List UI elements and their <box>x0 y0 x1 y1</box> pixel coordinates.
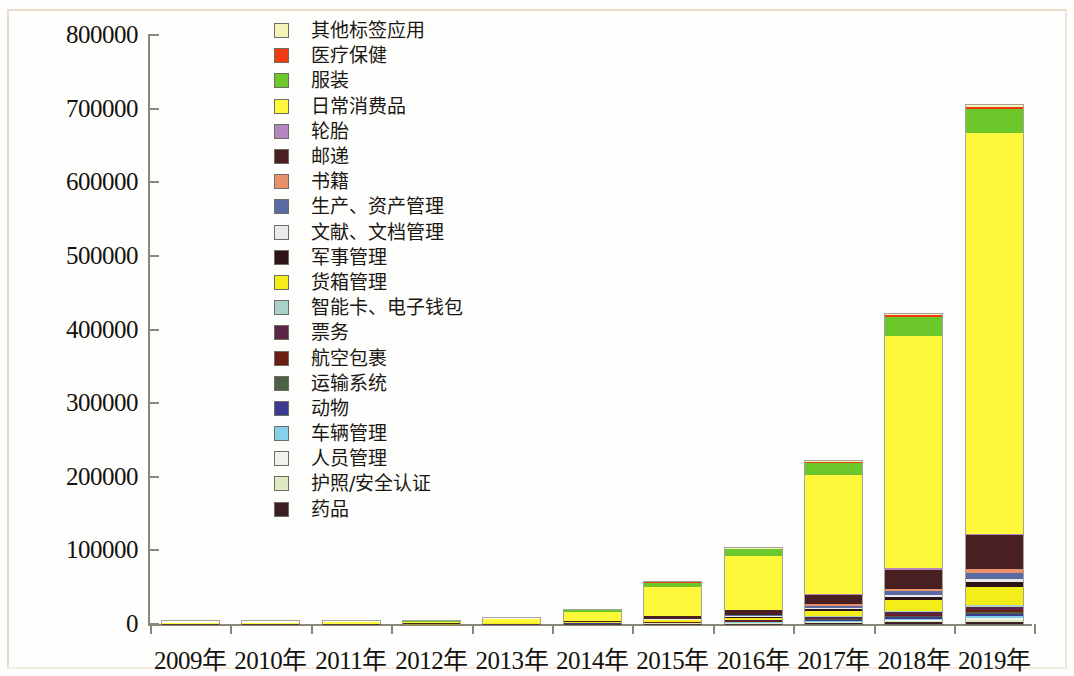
legend-label: 邮递 <box>311 147 349 166</box>
legend-swatch-icon <box>274 502 289 517</box>
y-axis-label: 600000 <box>0 169 138 194</box>
legend-item: 其他标签应用 <box>274 18 514 43</box>
y-axis-label: 700000 <box>0 96 138 121</box>
x-axis-label: 2018年 <box>874 640 954 676</box>
legend-swatch-icon <box>274 476 289 491</box>
bar-segment <box>725 624 782 625</box>
legend-swatch-icon <box>274 351 289 366</box>
y-axis-label: 200000 <box>0 464 138 489</box>
bar-segment <box>805 623 862 624</box>
y-axis-tick <box>148 402 159 404</box>
legend-label: 票务 <box>311 323 349 342</box>
y-axis-tick <box>148 34 159 36</box>
x-axis-tick <box>874 624 876 634</box>
y-axis-tick <box>148 181 159 183</box>
x-axis-tick <box>472 624 474 634</box>
legend-label: 运输系统 <box>311 374 387 393</box>
x-axis-tick <box>311 624 313 634</box>
legend-item: 日常消费品 <box>274 94 514 119</box>
legend-label: 文献、文档管理 <box>311 223 444 242</box>
bar-2013年 <box>483 618 540 624</box>
bar-2014年 <box>564 610 621 624</box>
legend-label: 动物 <box>311 399 349 418</box>
legend-item: 护照/安全认证 <box>274 471 514 496</box>
x-axis-tick <box>954 624 956 634</box>
legend-swatch-icon <box>274 23 289 38</box>
x-axis-tick <box>1034 624 1036 634</box>
legend-swatch-icon <box>274 325 289 340</box>
legend-swatch-icon <box>274 250 289 265</box>
legend-item: 生产、资产管理 <box>274 194 514 219</box>
x-axis-label: 2016年 <box>713 640 793 676</box>
bar-segment <box>885 317 942 337</box>
x-axis-tick <box>793 624 795 634</box>
bar-segment <box>966 622 1023 624</box>
legend-item: 运输系统 <box>274 371 514 396</box>
legend-swatch-icon <box>274 225 289 240</box>
bar-2018年 <box>885 314 942 624</box>
legend-swatch-icon <box>274 300 289 315</box>
y-axis-label: 100000 <box>0 537 138 562</box>
x-axis-tick <box>713 624 715 634</box>
x-axis-tick <box>391 624 393 634</box>
bar-2016年 <box>725 548 782 624</box>
legend-swatch-icon <box>274 48 289 63</box>
x-axis-tick <box>552 624 554 634</box>
legend-swatch-icon <box>274 99 289 114</box>
y-axis-label: 500000 <box>0 243 138 268</box>
stacked-bar-chart: 8000007000006000005000004000003000002000… <box>0 0 1074 676</box>
x-axis-tick <box>150 624 152 634</box>
bar-2010年 <box>242 621 299 624</box>
x-axis-label: 2014年 <box>552 640 632 676</box>
y-axis-tick <box>148 476 159 478</box>
bar-2011年 <box>323 621 380 624</box>
y-axis-tick <box>148 108 159 110</box>
legend-label: 人员管理 <box>311 449 387 468</box>
legend-swatch-icon <box>274 426 289 441</box>
x-axis-label: 2019年 <box>954 640 1034 676</box>
x-axis-tick <box>632 624 634 634</box>
legend-swatch-icon <box>274 199 289 214</box>
legend-label: 医疗保健 <box>311 46 387 65</box>
legend-label: 日常消费品 <box>311 97 406 116</box>
bar-segment <box>885 622 942 624</box>
legend-label: 车辆管理 <box>311 424 387 443</box>
legend-item: 动物 <box>274 396 514 421</box>
bar-segment <box>725 556 782 610</box>
bar-2009年 <box>162 621 219 624</box>
legend-label: 服装 <box>311 71 349 90</box>
legend-label: 书籍 <box>311 172 349 191</box>
legend-item: 药品 <box>274 497 514 522</box>
y-axis-label: 300000 <box>0 390 138 415</box>
x-axis-label: 2009年 <box>150 640 230 676</box>
legend-item: 航空包裹 <box>274 345 514 370</box>
legend-label: 护照/安全认证 <box>311 474 431 493</box>
legend-label: 航空包裹 <box>311 349 387 368</box>
bar-2015年 <box>644 582 701 624</box>
x-axis-label: 2010年 <box>230 640 310 676</box>
y-axis-tick <box>148 255 159 257</box>
bar-segment <box>966 535 1023 569</box>
legend-label: 其他标签应用 <box>311 21 425 40</box>
x-axis-label: 2012年 <box>391 640 471 676</box>
legend-label: 智能卡、电子钱包 <box>311 298 463 317</box>
legend-swatch-icon <box>274 124 289 139</box>
bar-segment <box>885 570 942 589</box>
x-axis-label: 2015年 <box>632 640 712 676</box>
x-axis-line <box>148 624 1032 626</box>
legend-swatch-icon <box>274 149 289 164</box>
bar-2017年 <box>805 461 862 624</box>
legend-item: 轮胎 <box>274 119 514 144</box>
legend-item: 票务 <box>274 320 514 345</box>
legend-item: 邮递 <box>274 144 514 169</box>
x-axis-label: 2013年 <box>472 640 552 676</box>
legend-item: 货箱管理 <box>274 270 514 295</box>
chart-page: 8000007000006000005000004000003000002000… <box>0 0 1074 676</box>
legend-label: 军事管理 <box>311 248 387 267</box>
legend-item: 智能卡、电子钱包 <box>274 295 514 320</box>
x-axis-label: 2017年 <box>793 640 873 676</box>
legend-swatch-icon <box>274 73 289 88</box>
x-axis-label: 2011年 <box>311 640 391 676</box>
legend-swatch-icon <box>274 275 289 290</box>
legend-item: 文献、文档管理 <box>274 220 514 245</box>
